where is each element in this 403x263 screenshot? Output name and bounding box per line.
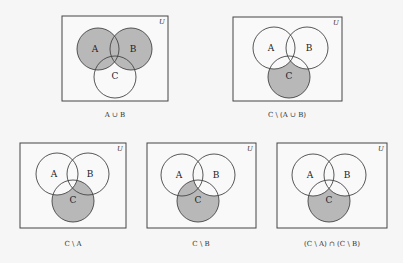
label-b: B	[87, 169, 94, 179]
label-b: B	[306, 43, 313, 53]
label-a: A	[306, 170, 314, 180]
label-a: A	[267, 43, 275, 53]
label-b: B	[344, 170, 351, 180]
caption-c-minus-a-intersect-c-minus-b: (C \ A) ∩ (C \ B)	[272, 240, 392, 248]
label-c: C	[195, 195, 202, 205]
caption-c-minus-a-union-b: C \ (A ∪ B)	[227, 111, 347, 119]
venn-c-minus-a-intersect-c-minus-b: ABCU	[277, 143, 387, 228]
label-c: C	[70, 195, 77, 205]
label-a: A	[91, 44, 99, 54]
caption-c-minus-b: C \ B	[141, 240, 261, 248]
caption-c-minus-a: C \ A	[13, 240, 133, 248]
label-c: C	[326, 195, 333, 205]
label-a: A	[175, 170, 183, 180]
venn-c-minus-a: ABCU	[20, 143, 126, 228]
venn-a-union-b: ABCU	[62, 16, 168, 101]
label-c: C	[286, 71, 293, 81]
label-b: B	[130, 44, 137, 54]
label-b: B	[213, 170, 220, 180]
venn-diagram-figure: ABCUABCUABCUABCUABCU	[0, 0, 403, 263]
venn-c-minus-a-union-b: ABCU	[233, 17, 342, 101]
caption-a-union-b: A ∪ B	[55, 111, 175, 119]
label-a: A	[50, 169, 58, 179]
venn-c-minus-b: ABCU	[147, 143, 256, 228]
label-c: C	[112, 71, 119, 81]
